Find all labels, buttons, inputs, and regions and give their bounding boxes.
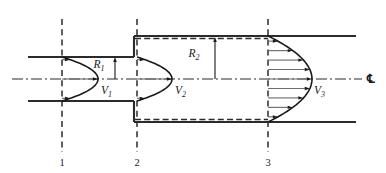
- v2-subscript: 2: [182, 90, 186, 99]
- r2-symbol: R: [187, 47, 195, 59]
- r1-subscript: 1: [101, 64, 105, 73]
- pipe-expansion-diagram: R1 R2 V1 V2 V3 ℄ 123: [0, 0, 386, 173]
- centerline-symbol-icon: ℄: [366, 72, 375, 86]
- diagram-canvas: R1 R2 V1 V2 V3 ℄ 123: [0, 0, 386, 173]
- r1-symbol: R: [92, 58, 100, 70]
- v1-subscript: 1: [108, 90, 112, 99]
- r2-label: R2: [187, 47, 199, 62]
- r2-arrowhead-icon: [213, 37, 217, 42]
- v2-label: V2: [175, 84, 186, 99]
- v3-label: V3: [314, 84, 325, 99]
- r2-subscript: 2: [196, 53, 200, 62]
- station-number-2: 2: [134, 157, 139, 168]
- station-number-3: 3: [265, 157, 270, 168]
- station-captions-group: 123: [59, 157, 270, 168]
- r1-label: R1: [92, 58, 104, 73]
- v1-label: V1: [101, 84, 112, 99]
- v3-subscript: 3: [320, 90, 325, 99]
- station-number-1: 1: [59, 157, 64, 168]
